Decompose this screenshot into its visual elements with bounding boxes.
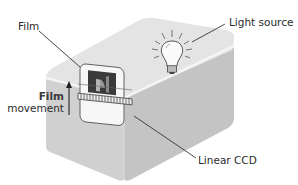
film-label: Film — [18, 20, 39, 32]
film-movement-label-line2: movement — [2, 102, 64, 114]
film-movement-label-line1: Film — [14, 90, 64, 102]
linear-ccd-label: Linear CCD — [198, 154, 257, 166]
film-scanner-diagram: Film Light source Film movement Linear C… — [0, 0, 298, 185]
film-leader-line — [39, 31, 80, 67]
light-source-label: Light source — [229, 16, 293, 28]
